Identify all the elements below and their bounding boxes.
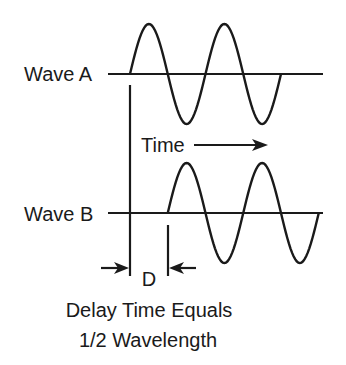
delay-marker-group: D [101,225,196,290]
wave-b-label: Wave B [24,203,93,225]
wave-b-group: Wave B [24,163,323,263]
time-arrow-group: Time [141,134,268,156]
wave-a-group: Wave A [24,24,323,124]
wave-a-label: Wave A [24,63,93,85]
delay-label: D [142,268,156,290]
wave-delay-diagram: Wave A Time Wave B D Delay Time Equals 1… [0,0,346,365]
caption-line-2: 1/2 Wavelength [79,329,217,351]
time-label: Time [141,134,185,156]
caption-line-1: Delay Time Equals [66,299,233,321]
